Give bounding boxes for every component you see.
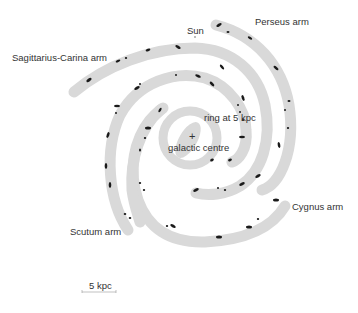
galactic-centre-marker: + xyxy=(189,131,195,142)
cygnus-arm-label: Cygnus arm xyxy=(292,202,343,212)
sun-marker xyxy=(194,36,196,38)
scutum-arm-label: Scutum arm xyxy=(70,227,121,237)
galaxy-diagram xyxy=(0,0,358,313)
perseus-arm-label: Perseus arm xyxy=(255,17,309,27)
sagittarius-carina-arm-label: Sagittarius-Carina arm xyxy=(12,53,107,63)
sun-label: Sun xyxy=(187,26,204,36)
galactic-centre-label: galactic centre xyxy=(168,143,229,153)
scale-bar-label: 5 kpc xyxy=(89,281,112,291)
ring-5kpc-label: ring at 5 kpc xyxy=(204,113,256,123)
